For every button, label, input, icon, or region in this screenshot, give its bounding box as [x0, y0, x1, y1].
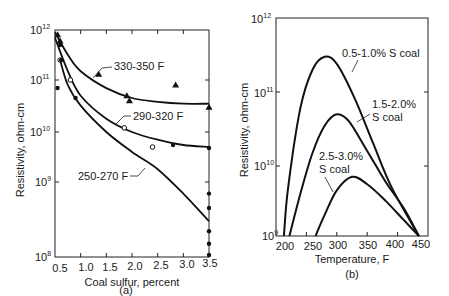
filled-circle-marker	[207, 146, 211, 150]
a-ytick-9: 109	[35, 175, 51, 188]
a-annot-330: 330-350 F	[114, 60, 164, 72]
a-ytick-11: 1011	[30, 73, 50, 86]
b-xtick: 400	[386, 238, 404, 250]
a-xtick: 1.5	[102, 261, 117, 273]
panel-b: 1012 1011 1010 109 200 250 300 350 400 4…	[238, 12, 430, 265]
a-xtick: 1.0	[78, 261, 93, 273]
filled-circle-marker	[171, 143, 175, 147]
filled-circle-marker	[58, 43, 62, 47]
a-curve-2	[60, 60, 209, 221]
open-circle-marker	[150, 145, 155, 150]
b-curve-0	[284, 56, 419, 236]
b-ytick-12: 1012	[251, 12, 271, 25]
b-annot-15a: 1.5-2.0%	[372, 98, 416, 110]
panel-b-caption: (b)	[345, 268, 358, 280]
a-annot-290: 290-320 F	[133, 110, 183, 122]
a-annot-250: 250-270 F	[78, 170, 128, 182]
a-ytick-10: 1010	[30, 125, 50, 138]
b-ytick-10: 1010	[254, 159, 274, 172]
filled-circle-marker	[73, 96, 77, 100]
b-xtick: 300	[329, 239, 347, 251]
panel-a: 1012 1011 1010 109 108 0.5 1.0 1.5 2.0 2…	[14, 23, 218, 288]
a-xtick: 2.5	[153, 259, 168, 271]
a-ytick-12: 1012	[30, 23, 50, 36]
a-xtick: 3.5	[202, 257, 217, 269]
a-ytick-8: 108	[35, 250, 51, 263]
a-leader-290	[116, 116, 131, 124]
b-annot-25a: 2.5-3.0%	[319, 150, 363, 162]
a-curve-1	[55, 38, 209, 147]
open-circle-marker	[68, 78, 73, 83]
b-xtick: 350	[359, 239, 377, 251]
filled-circle-marker	[207, 191, 211, 195]
panel-a-caption: (a)	[119, 284, 132, 296]
b-xtick: 200	[276, 240, 294, 252]
a-xtick: 2.0	[127, 260, 142, 272]
a-xtick: 0.5	[52, 262, 67, 274]
b-ylabel: Resistivity, ohm-cm	[238, 83, 250, 178]
filled-circle-marker	[207, 229, 211, 233]
panel-b-curves	[284, 56, 419, 236]
filled-circle-marker	[207, 242, 211, 246]
b-xtick: 450	[412, 238, 430, 250]
b-annot-25b: S coal	[319, 163, 350, 175]
b-xlabel: Temperature, F	[315, 253, 390, 265]
filled-circle-marker	[207, 206, 211, 210]
b-leader-05	[352, 60, 358, 72]
b-xtick: 250	[304, 240, 322, 252]
b-curve-1	[289, 114, 419, 236]
a-leader-250	[130, 168, 145, 176]
open-circle-marker	[122, 126, 127, 131]
b-annot-05: 0.5-1.0% S coal	[342, 47, 420, 59]
filled-circle-marker	[55, 86, 59, 90]
b-annot-15b: S coal	[372, 111, 403, 123]
b-ytick-11: 1011	[254, 86, 274, 99]
filled-circle-marker	[59, 58, 63, 62]
triangle-marker	[172, 82, 179, 88]
a-ylabel: Resistivity, ohm-cm	[14, 103, 26, 198]
figure: 1012 1011 1010 109 108 0.5 1.0 1.5 2.0 2…	[0, 0, 449, 296]
b-leader-25	[325, 177, 333, 192]
a-xtick: 3.0	[179, 258, 194, 270]
